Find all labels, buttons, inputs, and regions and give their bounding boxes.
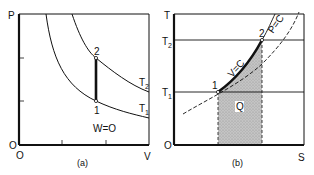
t-axis-label: T xyxy=(164,10,170,21)
v-axis-label: V xyxy=(144,151,151,162)
s-axis-label: S xyxy=(298,152,305,163)
panel-b-caption: (b) xyxy=(232,158,243,168)
state-point-1 xyxy=(94,99,97,102)
panel-a-caption: (a) xyxy=(77,158,88,168)
panel-b: T S O T 2 T 1 1 2 V=C P=C Q (b) xyxy=(162,10,305,168)
heat-q-label: Q xyxy=(236,101,244,112)
work-annotation: W=O xyxy=(93,123,116,134)
point-1-label: 1 xyxy=(212,80,218,91)
thermo-diagram: P V O O 2 1 T 2 T 1 W=O (a) T S xyxy=(0,0,314,175)
constant-pressure-label: P=C xyxy=(266,13,286,35)
point-1-label: 1 xyxy=(94,105,100,116)
origin-label-x: O xyxy=(16,150,24,161)
t2-curve-sub: 2 xyxy=(145,83,149,90)
point-2-label: 2 xyxy=(94,46,100,57)
isotherm-t2-curve xyxy=(72,14,149,92)
heat-area-q xyxy=(218,40,262,145)
panel-a: P V O O 2 1 T 2 T 1 W=O (a) xyxy=(8,10,151,168)
origin-label: O xyxy=(164,140,172,151)
point-2-label: 2 xyxy=(259,28,265,39)
isotherm-t1-curve xyxy=(46,14,149,118)
t1-curve-sub: 1 xyxy=(145,109,149,116)
t1-tick-sub: 1 xyxy=(168,93,172,100)
t2-tick-sub: 2 xyxy=(168,42,172,49)
p-axis-label: P xyxy=(8,10,15,21)
